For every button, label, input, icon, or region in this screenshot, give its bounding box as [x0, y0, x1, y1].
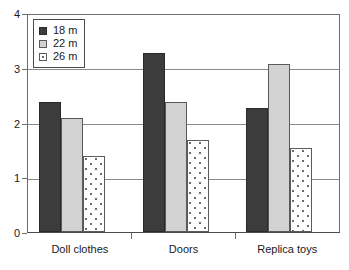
bar-group-replica-toys [235, 15, 339, 232]
x-axis-labels: Doll clothes Doors Replica toys [28, 243, 339, 256]
y-axis-label-1: 1 [14, 173, 20, 184]
legend-label-18m: 18 m [53, 25, 77, 36]
bar-group-doors [132, 15, 236, 232]
y-axis-label-4: 4 [14, 9, 20, 20]
legend-item-22m: 22 m [39, 37, 77, 50]
bar-26m-doors [187, 140, 209, 232]
bar-18m-doll-clothes [39, 102, 61, 232]
legend-label-26m: 26 m [53, 51, 77, 62]
y-axis-label-0: 0 [14, 228, 20, 239]
y-axis-label-3: 3 [14, 64, 20, 75]
x-axis-ticks [28, 233, 339, 240]
y-axis: 4 3 2 1 0 [0, 0, 27, 270]
bar-26m-doll-clothes [83, 156, 105, 232]
x-axis-tick-1 [131, 233, 132, 239]
legend: 18 m 22 m 26 m [33, 19, 85, 68]
bar-22m-replica-toys [268, 64, 290, 232]
bar-18m-doors [143, 53, 165, 232]
x-axis-label-doors: Doors [132, 243, 236, 256]
legend-item-18m: 18 m [39, 24, 77, 37]
x-axis-label-replica-toys: Replica toys [235, 243, 339, 256]
x-axis-label-doll-clothes: Doll clothes [28, 243, 132, 256]
bar-chart: 4 3 2 1 0 [0, 0, 349, 270]
legend-label-22m: 22 m [53, 38, 77, 49]
y-axis-tick-0 [22, 233, 27, 234]
bar-18m-replica-toys [246, 108, 268, 232]
legend-swatch-icon-22m [39, 40, 47, 48]
x-axis-tick-2 [235, 233, 236, 239]
bar-22m-doors [165, 102, 187, 232]
bar-22m-doll-clothes [61, 118, 83, 232]
legend-swatch-icon-26m [39, 53, 47, 61]
legend-swatch-icon-18m [39, 27, 47, 35]
y-axis-label-2: 2 [14, 119, 20, 130]
bar-26m-replica-toys [290, 148, 312, 232]
legend-item-26m: 26 m [39, 50, 77, 63]
